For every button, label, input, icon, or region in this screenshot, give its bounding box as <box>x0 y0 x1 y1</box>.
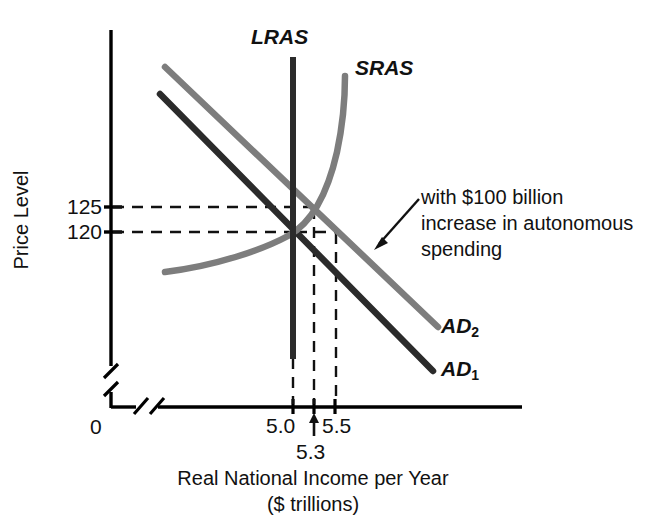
x-tick-label-5-5: 5.5 <box>322 414 351 439</box>
y-tick-label-120: 120 <box>47 220 102 245</box>
y-axis-break-mark-upper <box>104 364 118 378</box>
annotation-arrow <box>374 199 419 250</box>
ad2-label-subscript: 2 <box>471 324 479 340</box>
x-axis-title-line1: Real National Income per Year <box>118 467 508 491</box>
annotation-line-2: increase in autonomous <box>421 210 633 236</box>
ad1-label: AD1 <box>441 357 479 382</box>
annotation-line-1: with $100 billion <box>421 184 563 210</box>
ad2-label-text: AD <box>441 314 471 337</box>
x-axis-break-mark-left <box>134 398 148 414</box>
origin-label: 0 <box>90 415 102 440</box>
x-axis-5-3-arrow <box>309 413 319 436</box>
ad1-label-subscript: 1 <box>471 367 479 383</box>
sras-label: SRAS <box>355 56 413 81</box>
ad-as-diagram: Price Level 125 120 0 5.0 5.5 5.3 Real N… <box>0 0 653 524</box>
lras-label: LRAS <box>251 25 308 50</box>
plot-canvas <box>0 0 653 524</box>
ad1-label-text: AD <box>441 357 471 380</box>
x-axis-title-line2: ($ trillions) <box>118 493 508 517</box>
x-tick-label-5-0: 5.0 <box>266 414 295 439</box>
ad2-label: AD2 <box>441 314 479 339</box>
y-tick-label-125: 125 <box>47 195 102 220</box>
ad2-curve <box>165 67 438 327</box>
sras-curve <box>165 76 345 272</box>
x-tick-label-5-3: 5.3 <box>296 440 325 465</box>
annotation-line-3: spending <box>421 236 502 262</box>
y-axis-title: Price Level <box>10 150 36 290</box>
